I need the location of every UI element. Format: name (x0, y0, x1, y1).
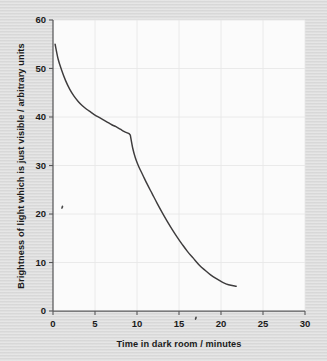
y-axis-title: Brightness of light which is just visibl… (16, 43, 26, 288)
y-axis-tick-labels: 0102030405060 (35, 14, 46, 316)
x-tick-label: 25 (258, 318, 269, 329)
x-tick-label: 10 (132, 318, 143, 329)
x-axis-tick-labels: 051015202530 (50, 318, 310, 329)
x-tick-label: 20 (216, 318, 227, 329)
y-tick-label: 10 (35, 257, 46, 268)
y-tick-label: 50 (35, 63, 46, 74)
y-tick-label: 0 (41, 305, 46, 316)
x-axis-title: Time in dark room / minutes (116, 339, 241, 349)
x-tick-label: 15 (174, 318, 185, 329)
figure-canvas: 051015202530 0102030405060 Time in dark … (0, 0, 327, 361)
y-tick-label: 30 (35, 160, 46, 171)
dark-adaptation-line-chart: 051015202530 0102030405060 Time in dark … (0, 0, 327, 361)
y-tick-label: 20 (35, 208, 46, 219)
x-tick-label: 5 (92, 318, 98, 329)
y-tick-label: 40 (35, 111, 46, 122)
y-tick-label: 60 (35, 14, 46, 25)
stray-mark (194, 316, 197, 320)
x-tick-label: 0 (50, 318, 55, 329)
x-tick-label: 30 (300, 318, 311, 329)
